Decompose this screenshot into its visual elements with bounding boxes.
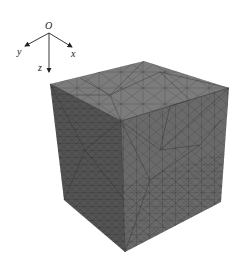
y-axis-arrow <box>25 33 49 46</box>
meshed-cube <box>50 61 229 252</box>
x-axis-arrow <box>49 33 72 47</box>
origin-label: O <box>45 20 52 31</box>
x-axis-label: x <box>70 48 76 59</box>
figure: O y x z <box>0 0 244 268</box>
coordinate-axes: O y x z <box>16 20 76 73</box>
y-axis-label: y <box>16 46 22 57</box>
z-axis-label: z <box>37 62 42 73</box>
